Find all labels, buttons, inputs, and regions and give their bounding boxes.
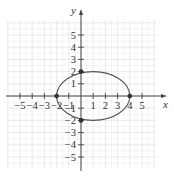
y-tick-label: −3 xyxy=(65,127,76,138)
intercept-point xyxy=(79,118,84,123)
x-tick-label: 1 xyxy=(91,100,96,111)
x-axis-label: x xyxy=(162,98,168,110)
y-tick-label: 5 xyxy=(71,30,76,41)
ellipse-graph: −5−4−3−2−112345−5−4−3−2−112345 x y xyxy=(0,0,174,177)
x-tick-label: 3 xyxy=(115,100,120,111)
intercept-point xyxy=(54,94,59,99)
x-tick-label: −2 xyxy=(51,100,62,111)
grid-lines xyxy=(8,20,156,168)
y-tick-label: 1 xyxy=(71,78,76,89)
x-tick-label: −4 xyxy=(27,100,39,111)
x-tick-label: 5 xyxy=(139,100,144,111)
y-tick-label: −5 xyxy=(65,152,76,163)
x-tick-label: 2 xyxy=(103,100,108,111)
y-tick-label: −4 xyxy=(65,139,77,150)
intercept-point xyxy=(128,94,133,99)
x-tick-label: 4 xyxy=(127,100,133,111)
y-tick-label: 3 xyxy=(71,54,76,65)
x-tick-label: −5 xyxy=(14,100,25,111)
y-tick-label: 4 xyxy=(71,42,77,53)
y-axis-arrow-icon xyxy=(79,9,83,15)
y-axis-label: y xyxy=(70,4,76,16)
x-tick-label: −3 xyxy=(39,100,50,111)
intercept-point xyxy=(79,69,84,74)
